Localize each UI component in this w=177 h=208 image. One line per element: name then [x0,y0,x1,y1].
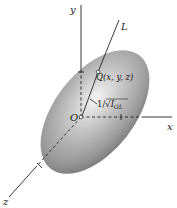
ellipsoid-diagram: y L x z O Q(x, y, z) 1/√IOL [0,0,177,208]
x-axis-label: x [167,121,173,132]
origin-label: O [70,112,78,123]
z-axis-label: z [2,196,9,207]
distance-subscript: OL [114,103,123,110]
origin-point [79,115,83,119]
ellipsoid [19,31,171,194]
distance-prefix: 1/√ [97,99,111,109]
point-q-label: Q(x, y, z) [96,72,133,82]
line-l-label: L [120,21,128,32]
y-axis-label: y [69,4,76,15]
